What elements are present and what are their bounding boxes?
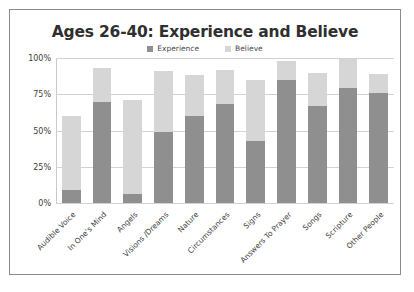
bar-stack[interactable] xyxy=(277,61,296,203)
plot-area: 0%25%50%75%100% xyxy=(56,58,394,203)
legend-label-believe: Believe xyxy=(235,44,263,53)
x-axis-label: Angels xyxy=(115,210,139,234)
y-axis-tick-label: 0% xyxy=(38,199,51,208)
bar-segment-believe[interactable] xyxy=(369,74,388,93)
bar-segment-believe[interactable] xyxy=(154,71,173,132)
bar-segment-believe[interactable] xyxy=(339,59,358,88)
legend-swatch-believe xyxy=(225,46,231,52)
y-axis-tick-label: 25% xyxy=(33,162,51,171)
x-axis-label-slot: In One's Mind xyxy=(87,206,118,272)
bar-segment-experience[interactable] xyxy=(93,102,112,204)
bar-segment-experience[interactable] xyxy=(216,104,235,203)
legend-item-experience[interactable]: Experience xyxy=(147,44,199,53)
bar-segment-experience[interactable] xyxy=(308,106,327,203)
bar-stack[interactable] xyxy=(246,80,265,203)
x-axis-labels: Audible VoiceIn One's MindAngelsVisions … xyxy=(56,206,394,272)
bar-slot xyxy=(363,58,394,203)
bar-stack[interactable] xyxy=(308,73,327,203)
bar-slot xyxy=(87,58,118,203)
bar-segment-believe[interactable] xyxy=(216,70,235,105)
bar-stack[interactable] xyxy=(339,59,358,203)
bar-stack[interactable] xyxy=(185,75,204,203)
chart-title: Ages 26-40: Experience and Believe xyxy=(10,23,400,41)
chart-legend: Experience Believe xyxy=(10,44,400,53)
bar-segment-believe[interactable] xyxy=(62,116,81,190)
bar-slot xyxy=(333,58,364,203)
bar-segment-experience[interactable] xyxy=(246,141,265,203)
bar-segment-experience[interactable] xyxy=(62,190,81,203)
bar-segment-believe[interactable] xyxy=(246,80,265,141)
bar-segment-experience[interactable] xyxy=(369,93,388,203)
bar-segment-experience[interactable] xyxy=(185,116,204,203)
bar-segment-experience[interactable] xyxy=(123,194,142,203)
bar-stack[interactable] xyxy=(154,71,173,203)
bar-stack[interactable] xyxy=(216,70,235,203)
legend-item-believe[interactable]: Believe xyxy=(225,44,263,53)
bar-slot xyxy=(302,58,333,203)
legend-label-experience: Experience xyxy=(157,44,199,53)
bar-slot xyxy=(210,58,241,203)
bar-slot xyxy=(271,58,302,203)
bar-segment-experience[interactable] xyxy=(339,88,358,203)
x-axis-label: Nature xyxy=(176,210,200,234)
bar-slot xyxy=(148,58,179,203)
bar-segment-experience[interactable] xyxy=(277,80,296,203)
bar-slot xyxy=(117,58,148,203)
legend-swatch-experience xyxy=(147,46,153,52)
bar-segment-believe[interactable] xyxy=(185,75,204,116)
bar-slot xyxy=(240,58,271,203)
y-axis-tick-label: 75% xyxy=(33,90,51,99)
x-axis-label-slot: Other People xyxy=(363,206,394,272)
bar-segment-believe[interactable] xyxy=(93,68,112,101)
bar-segment-believe[interactable] xyxy=(277,61,296,80)
x-axis-label: Signs xyxy=(241,210,262,231)
x-axis-label-slot: Circumstances xyxy=(210,206,241,272)
bar-segment-experience[interactable] xyxy=(154,132,173,203)
y-axis-tick-label: 100% xyxy=(28,54,51,63)
bar-slot xyxy=(179,58,210,203)
bar-stack[interactable] xyxy=(62,116,81,203)
bar-segment-believe[interactable] xyxy=(308,73,327,106)
x-axis-label-slot: Answers To Prayer xyxy=(271,206,302,272)
x-axis-label: Songs xyxy=(301,210,323,232)
chart-container: Ages 26-40: Experience and Believe Exper… xyxy=(9,9,401,275)
bar-stack[interactable] xyxy=(123,100,142,203)
bar-slot xyxy=(56,58,87,203)
bar-stack[interactable] xyxy=(369,74,388,203)
bar-stack[interactable] xyxy=(93,68,112,203)
x-axis-label-slot: Visions /Dreams xyxy=(148,206,179,272)
y-axis-tick-label: 50% xyxy=(33,126,51,135)
gridline xyxy=(56,203,394,204)
bar-segment-believe[interactable] xyxy=(123,100,142,194)
bar-series-group xyxy=(56,58,394,203)
